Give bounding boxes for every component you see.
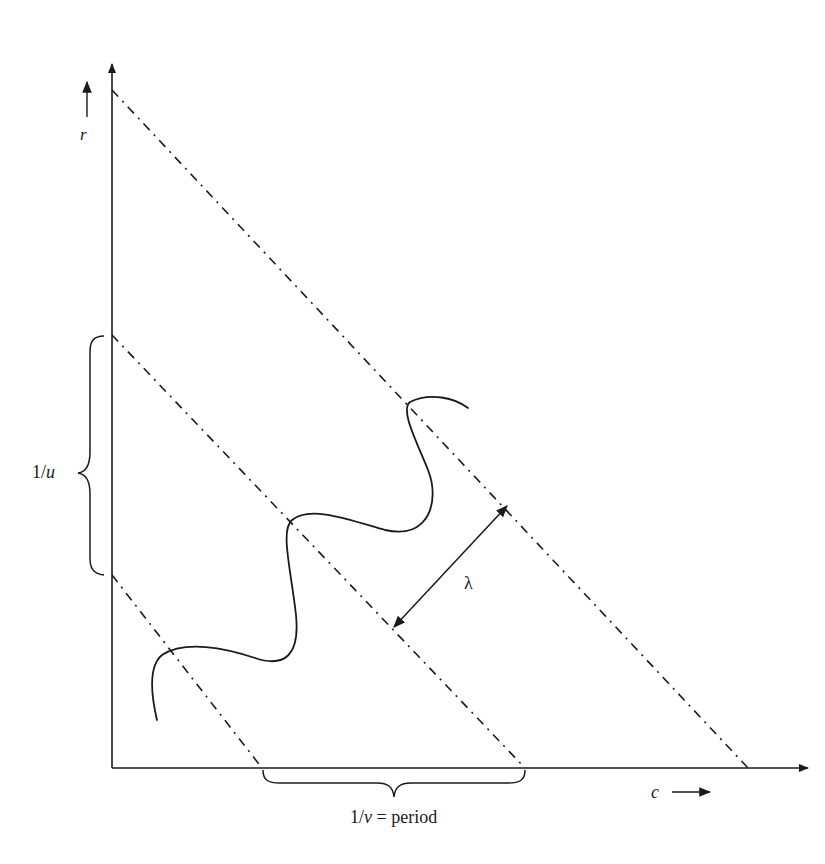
wave-curve — [152, 397, 468, 720]
v-bracket-label: 1/v = period — [350, 807, 437, 827]
wave-diagram: r c λ 1/u 1/v = period — [0, 0, 825, 864]
wavefront-lines — [112, 90, 748, 768]
wavefront-line-2 — [112, 335, 525, 768]
wavelength-arrow-icon — [394, 506, 507, 627]
lambda-label: λ — [464, 573, 473, 593]
wavefront-line-1 — [112, 90, 748, 768]
c-axis-label: c — [651, 782, 659, 802]
u-bracket-label: 1/u — [32, 462, 55, 482]
wavefront-line-3 — [112, 575, 262, 768]
r-axis-label: r — [80, 125, 87, 144]
vertical-brace — [78, 336, 104, 575]
horizontal-brace — [263, 770, 525, 797]
